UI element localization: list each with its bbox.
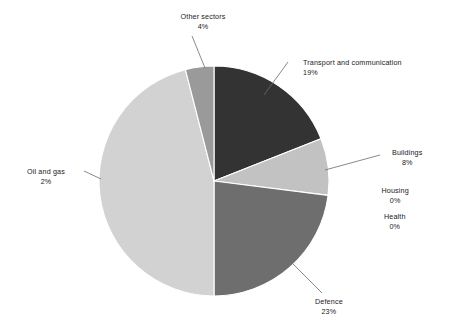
pie-chart-figure: Transport and communication19%Buildings8… xyxy=(0,0,450,330)
pie-label-value-other-sectors: 4% xyxy=(181,22,226,32)
pie-label-value-health: 0% xyxy=(384,222,406,232)
pie-label-value-transport-and-communication: 19% xyxy=(303,68,402,78)
leader-line-other-sectors xyxy=(192,36,205,68)
leader-line-buildings xyxy=(325,155,380,170)
pie-label-value-buildings: 8% xyxy=(392,158,422,168)
pie-label-name-oil-and-gas: Oil and gas xyxy=(27,167,65,177)
pie-label-buildings: Buildings8% xyxy=(392,148,422,168)
pie-label-housing: Housing0% xyxy=(382,186,409,206)
pie-label-name-housing: Housing xyxy=(382,186,409,196)
leader-line-defence xyxy=(292,263,322,293)
pie-chart-canvas xyxy=(0,0,450,330)
pie-label-name-transport-and-communication: Transport and communication xyxy=(303,58,402,68)
pie-label-value-oil-and-gas: 2% xyxy=(27,177,65,187)
pie-label-name-buildings: Buildings xyxy=(392,148,422,158)
pie-label-name-health: Health xyxy=(384,212,406,222)
pie-label-transport-and-communication: Transport and communication19% xyxy=(303,58,402,78)
pie-label-other-sectors: Other sectors4% xyxy=(181,12,226,32)
pie-label-oil-and-gas: Oil and gas2% xyxy=(27,167,65,187)
pie-slices-layer xyxy=(99,66,329,296)
pie-label-defence: Defence23% xyxy=(315,297,343,317)
pie-slice-defence[interactable] xyxy=(214,181,328,296)
pie-label-health: Health0% xyxy=(384,212,406,232)
pie-label-value-defence: 23% xyxy=(315,307,343,317)
pie-label-name-other-sectors: Other sectors xyxy=(181,12,226,22)
pie-label-value-housing: 0% xyxy=(382,196,409,206)
pie-label-name-defence: Defence xyxy=(315,297,343,307)
leader-line-oil-and-gas xyxy=(84,171,101,179)
